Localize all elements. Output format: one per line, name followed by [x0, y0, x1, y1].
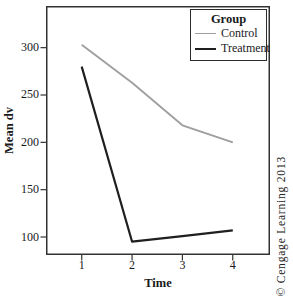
control-line-swatch: [195, 33, 216, 34]
y-tick-label: 150: [21, 182, 39, 197]
y-tick-label: 250: [21, 87, 39, 102]
legend-item-treatment: Treatment: [191, 41, 266, 56]
y-axis-title: Mean dv: [2, 81, 17, 181]
x-tick-label: 4: [221, 258, 245, 273]
y-tick-label: 100: [21, 230, 39, 245]
legend-label-control: Control: [221, 26, 258, 41]
x-tick-label: 1: [70, 258, 94, 273]
x-axis-title: Time: [46, 276, 270, 291]
legend: Group Control Treatment: [190, 9, 267, 61]
x-tick-label: 3: [170, 258, 194, 273]
legend-label-treatment: Treatment: [221, 41, 270, 56]
y-tick-label: 300: [21, 40, 39, 55]
legend-item-control: Control: [191, 26, 266, 41]
copyright-watermark: © Cengage Learning 2013: [275, 117, 288, 297]
treatment-line-swatch: [195, 48, 216, 50]
y-tick-label: 200: [21, 135, 39, 150]
legend-title: Group: [191, 12, 266, 26]
treatment-line: [82, 67, 233, 242]
line-chart-figure: Mean dv Time 1001502002503001234 Group C…: [0, 0, 293, 299]
x-tick-label: 2: [120, 258, 144, 273]
